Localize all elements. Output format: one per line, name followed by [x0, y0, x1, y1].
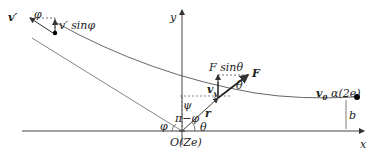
- trajectory: [55, 22, 355, 98]
- r-label: r: [205, 108, 211, 119]
- origin-label: O(Ze): [170, 137, 202, 148]
- F-label: F: [252, 68, 260, 79]
- theta-F-label: θ: [236, 80, 243, 91]
- F-sin-label: F sinθ: [209, 62, 243, 73]
- incoming-asymptote: [32, 38, 182, 131]
- phi-bottom-label: φ: [160, 121, 168, 132]
- y-axis-label: y: [170, 12, 176, 23]
- incoming-particle: [53, 31, 57, 35]
- phi-top-label: φ: [34, 9, 42, 20]
- diagram-graphics: [0, 0, 374, 156]
- vy-label: vy: [207, 84, 217, 97]
- v-prime-label: v′: [8, 12, 17, 23]
- x-axis-label: x: [360, 139, 366, 150]
- pi-minus-phi-label: π−φ: [175, 113, 199, 124]
- alpha-label: α(2e): [331, 88, 361, 99]
- b-label: b: [349, 110, 356, 121]
- scattering-diagram: v′ φ v′ sinφ y x F sinθ F θ vy ψ π−φ r φ…: [0, 0, 374, 156]
- theta-bottom-label: θ: [200, 122, 207, 133]
- v0-label: v0: [316, 88, 327, 101]
- psi-label: ψ: [183, 100, 192, 111]
- v-prime-sin-label: v′ sinφ: [59, 20, 95, 31]
